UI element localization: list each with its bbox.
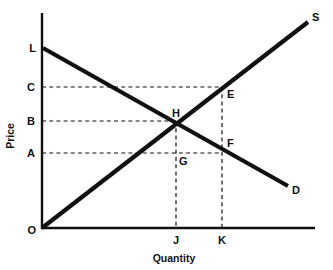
quantity-axis-title: Quantity — [153, 252, 196, 264]
quantity-label-j: J — [173, 234, 179, 246]
point-label-g: G — [179, 155, 188, 167]
chart-canvas: S D C B A L O J K E H F G Price Quantity — [0, 0, 333, 270]
point-label-l: L — [29, 42, 36, 54]
demand-curve-label: D — [292, 184, 300, 196]
price-label-a: A — [27, 147, 35, 159]
price-label-b: B — [27, 115, 35, 127]
supply-demand-chart: S D C B A L O J K E H F G Price Quantity — [0, 0, 333, 270]
origin-label: O — [27, 224, 36, 236]
quantity-label-k: K — [218, 234, 226, 246]
point-label-e: E — [227, 88, 234, 100]
price-axis-title: Price — [4, 123, 16, 149]
price-label-c: C — [27, 81, 35, 93]
point-label-h: H — [172, 107, 180, 119]
supply-curve-label: S — [312, 11, 319, 23]
point-label-f: F — [227, 137, 234, 149]
